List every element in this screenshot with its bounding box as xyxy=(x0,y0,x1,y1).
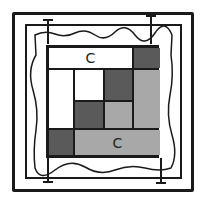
cell-right-tall xyxy=(134,70,160,128)
cell-mid-bottom-right xyxy=(105,102,132,128)
cell-label: C xyxy=(113,135,123,151)
cell-mid-top-right xyxy=(105,70,132,100)
cell-mid-bottom-left xyxy=(75,102,103,128)
cell-bottom-bar: C xyxy=(75,130,160,155)
cell-top-right xyxy=(134,48,160,68)
cell-bottom-left xyxy=(49,130,73,155)
cell-top-bar: C xyxy=(49,48,132,68)
cell-mid-top-left xyxy=(75,70,103,100)
cell-left-tall xyxy=(49,70,73,128)
quilt-grid: C C xyxy=(46,45,159,158)
cell-label: C xyxy=(86,50,96,66)
